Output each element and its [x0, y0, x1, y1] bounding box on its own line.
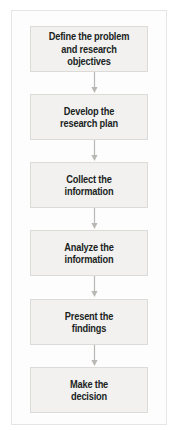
- flowchart-step-2: Develop the research plan: [30, 94, 148, 140]
- flowchart-step-2-label: Develop the research plan: [40, 105, 139, 130]
- flowchart-step-1-label: Define the problem and research objectiv…: [40, 30, 139, 68]
- down-arrow-icon-5: [88, 345, 101, 367]
- flowchart-step-3: Collect the information: [30, 162, 148, 208]
- flowchart-step-3-label: Collect the information: [40, 173, 139, 198]
- flowchart-step-4-label: Analyze the information: [40, 241, 139, 266]
- flowchart-step-5-label: Present the findings: [40, 310, 139, 335]
- flowchart-step-1: Define the problem and research objectiv…: [30, 26, 148, 72]
- down-arrow-icon-1: [88, 72, 101, 94]
- flowchart-diagram: Define the problem and research objectiv…: [0, 0, 179, 431]
- flowchart-step-6: Make the decision: [30, 367, 148, 413]
- down-arrow-icon-4: [88, 276, 101, 298]
- flowchart-steps-layer: Define the problem and research objectiv…: [0, 0, 179, 431]
- down-arrow-icon-2: [88, 140, 101, 162]
- flowchart-step-6-label: Make the decision: [40, 378, 139, 403]
- flowchart-step-4: Analyze the information: [30, 230, 148, 276]
- down-arrow-icon-3: [88, 208, 101, 230]
- flowchart-step-5: Present the findings: [30, 299, 148, 345]
